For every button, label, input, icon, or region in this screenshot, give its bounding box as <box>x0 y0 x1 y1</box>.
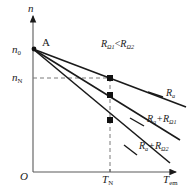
curve2-suffix-subscript: Ω1 <box>169 118 177 125</box>
curve2-suffix: +R <box>156 113 169 124</box>
resistance-inequality-note: RΩ1<RΩ2 <box>101 39 134 49</box>
operating-point-marker-3 <box>107 117 113 123</box>
leader-line-curve-2 <box>130 118 144 126</box>
x-axis-label: Tem <box>163 174 177 185</box>
point-label-A: A <box>42 37 50 48</box>
nN-base: n <box>12 71 18 83</box>
n0-subscript: 0 <box>18 49 21 56</box>
curve2-subscript: a <box>153 118 156 125</box>
curve1-subscript: a <box>172 92 175 99</box>
origin-label: O <box>20 171 28 182</box>
curve3-suffix-subscript: Ω2 <box>161 145 169 152</box>
note-left-subscript: Ω1 <box>107 43 115 50</box>
speed-torque-characteristic-figure: n Tem TN O n0 nN A RΩ1<RΩ2 Ra Ra+RΩ1 Ra+… <box>0 0 195 193</box>
n0-base: n <box>12 43 18 55</box>
nN-subscript: N <box>18 77 23 84</box>
operating-point-marker-1 <box>107 75 113 81</box>
curve-label-Ra: Ra <box>166 88 175 98</box>
tick-label-subscript: N <box>108 179 113 186</box>
leader-line-curve-3 <box>124 145 137 155</box>
curve-label-Ra-plus-Romega1: Ra+RΩ1 <box>147 114 177 124</box>
curve3-suffix: +R <box>148 140 161 151</box>
curve-label-Ra-plus-Romega2: Ra+RΩ2 <box>139 141 169 151</box>
curve-Ra-plus-Romega1 <box>33 49 180 140</box>
x-axis-label-subscript: em <box>169 179 177 186</box>
x-axis-tick-label-TN: TN <box>102 174 113 185</box>
no-load-point-A-marker <box>32 47 37 52</box>
y-axis-label: n <box>28 3 34 14</box>
curve3-subscript: a <box>145 145 148 152</box>
y-axis-value-label-n0: n0 <box>12 44 21 55</box>
y-axis-value-label-nN: nN <box>12 72 22 83</box>
operating-point-marker-2 <box>107 92 113 98</box>
note-right-subscript: Ω2 <box>126 43 134 50</box>
